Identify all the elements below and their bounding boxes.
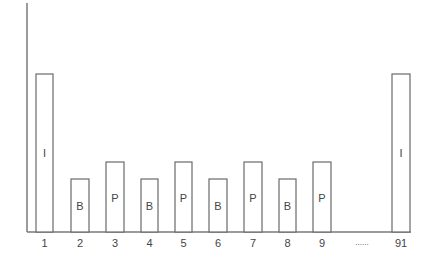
x-tick: 6: [215, 237, 221, 249]
x-tick: 4: [146, 237, 152, 249]
bar-label: I: [43, 147, 46, 159]
x-tick: 5: [180, 237, 186, 249]
bar-label: B: [146, 200, 153, 212]
bar-6: B 6: [209, 179, 227, 249]
bar-label: I: [399, 147, 402, 159]
bar-91: I 91: [392, 74, 410, 249]
bar-8: B 8: [279, 179, 296, 249]
bar-label: B: [76, 200, 83, 212]
x-tick: 9: [319, 237, 325, 249]
bar-label: B: [284, 200, 291, 212]
bar-5: P 5: [175, 162, 192, 249]
x-tick: 7: [250, 237, 256, 249]
bar-label: P: [111, 192, 118, 204]
bar-9: P 9: [313, 162, 331, 249]
bar-label: P: [180, 192, 187, 204]
bar-1: I 1: [36, 74, 53, 249]
frame-bar-diagram: I 1 B 2 P 3 B 4 P 5 B 6 P 7 B 8: [0, 0, 436, 264]
x-tick: 91: [395, 237, 407, 249]
bar-label: B: [214, 200, 221, 212]
bar-label: P: [249, 192, 256, 204]
x-tick: 8: [284, 237, 290, 249]
bar-3: P 3: [106, 162, 124, 249]
x-tick: 3: [112, 237, 118, 249]
ellipsis: ......: [355, 238, 368, 247]
bar-2: B 2: [71, 179, 89, 249]
x-tick: 1: [41, 237, 47, 249]
bar-7: P 7: [244, 162, 262, 249]
bar-4: B 4: [141, 179, 158, 249]
bar-label: P: [318, 192, 325, 204]
x-tick: 2: [77, 237, 83, 249]
